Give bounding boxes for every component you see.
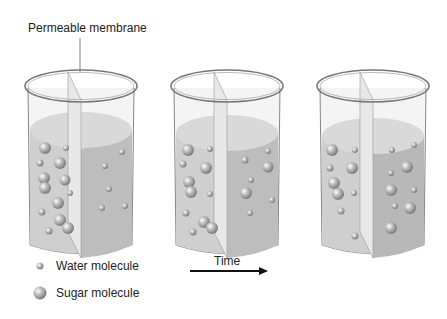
arrow-head-icon: [259, 267, 268, 275]
water-legend-label: Water molecule: [56, 259, 139, 273]
water-molecule-icon: [37, 263, 44, 270]
beaker-2: [171, 70, 283, 258]
sugar-molecule-icon: [34, 287, 47, 300]
beaker-1: [25, 70, 137, 258]
time-label: Time: [214, 254, 240, 268]
sugar-legend-label: Sugar molecule: [56, 286, 139, 300]
beaker-3: [317, 70, 429, 258]
